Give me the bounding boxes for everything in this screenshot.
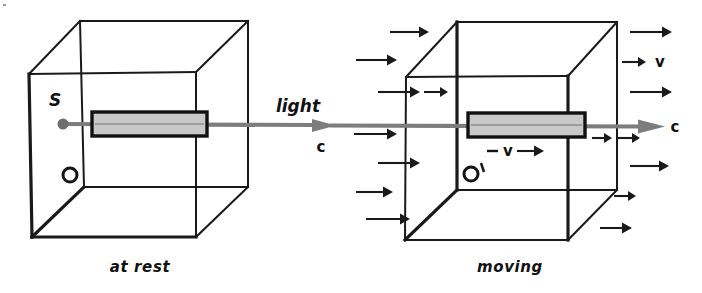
wind-arrow [366,214,410,225]
caption-at-rest: at rest [110,258,171,276]
diagram-canvas: S O at rest [0,0,702,293]
source-label: S [49,90,61,110]
light-source-dot [58,119,69,130]
speed-c-left-label: c [317,138,326,156]
wind-arrow [356,187,393,198]
physics-diagram-figure: S O at rest [0,0,702,293]
wind-arrow [614,191,636,201]
wind-arrow [630,161,669,172]
panel-moving: v moving [405,22,617,276]
velocity-inner-label: v [503,142,513,160]
panel-at-rest: S O at rest [29,21,248,276]
wind-arrow [630,87,672,98]
wind-arrow [600,223,632,234]
observer-circle-moving [464,167,478,181]
wind-arrow [356,55,397,66]
slab-moving [468,113,585,137]
scan-artifact-speck [3,4,6,6]
wind-arrow [618,133,640,143]
velocity-label: v [655,53,665,71]
observer-circle-at-rest [63,168,77,182]
wind-arrow [378,87,420,98]
caption-moving: moving [477,258,543,276]
wind-arrow-interior [592,133,612,143]
wind-arrow-interior [424,87,448,97]
light-label: light [276,96,321,116]
slab-at-rest [92,112,207,136]
wind-arrow [354,129,397,140]
wind-arrow [622,57,646,67]
wind-arrow [378,158,420,169]
wind-arrow [630,27,672,38]
inner-velocity-arrow [487,146,544,157]
speed-c-right-label: c [671,118,680,136]
observer-prime-tick [481,163,484,172]
wind-arrow [390,27,429,38]
